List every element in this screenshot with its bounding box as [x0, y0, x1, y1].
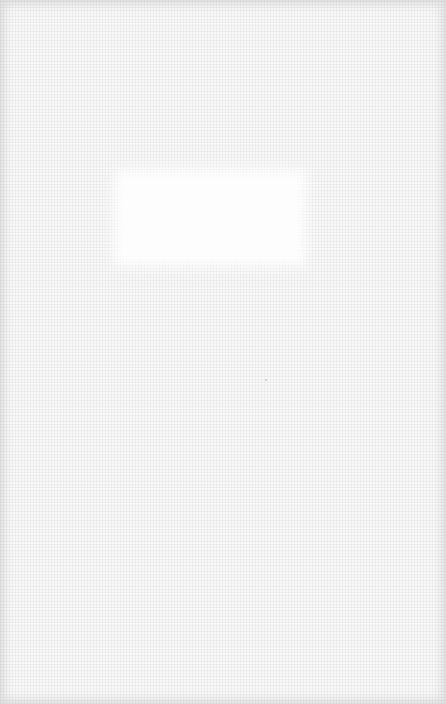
linen-texture-background: [0, 0, 446, 704]
bright-highlight-area: [115, 170, 305, 265]
texture-speck: [265, 379, 267, 381]
edge-vignette: [0, 0, 446, 704]
